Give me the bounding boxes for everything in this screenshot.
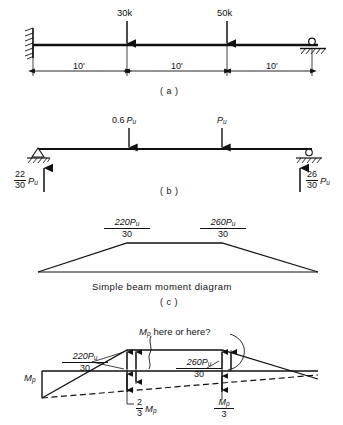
ordinate-d-1-numerator: 220Pu bbox=[62, 352, 108, 362]
redundant-1-subscript: p bbox=[153, 407, 157, 414]
panel-label-a: ( a ) bbox=[160, 86, 179, 96]
redundant-ordinate-label-1: 2 3 Mp bbox=[136, 398, 157, 419]
annotation-d: Mphere or here? bbox=[139, 327, 211, 338]
ordinate-stack-right-d bbox=[222, 350, 231, 400]
reaction-label-right-b: 26 30 Pu bbox=[306, 170, 330, 191]
load-label-b-1: 0.6Pu bbox=[112, 116, 136, 126]
reaction-left-denominator: 30 bbox=[14, 181, 26, 190]
load-label-b-2: Pu bbox=[217, 116, 227, 126]
load-b-1-coefficient: 0.6 bbox=[112, 115, 125, 125]
ordinate-c-1-numerator: 220Pu bbox=[104, 218, 150, 228]
end-moment-symbol: M bbox=[24, 372, 32, 383]
ordinate-c-1-denominator: 30 bbox=[104, 230, 150, 239]
redundant-2-numerator: Mp bbox=[214, 398, 234, 408]
panel-label-b: ( b ) bbox=[160, 186, 179, 196]
dimension-label-a-1: 10' bbox=[73, 62, 85, 71]
end-moment-subscript: p bbox=[32, 376, 36, 383]
reaction-left-subscript: u bbox=[34, 179, 38, 186]
ordinate-stack-left-d bbox=[127, 350, 136, 404]
moment-ordinate-d-1: 220Pu 30 bbox=[62, 352, 108, 373]
reaction-left-fraction: 22 30 bbox=[14, 170, 26, 191]
ordinate-d-2-denominator: 30 bbox=[176, 370, 222, 379]
load-label-30k: 30k bbox=[117, 8, 132, 18]
figure-root: 30k 50k 10' 10' 10' ( a ) 0.6Pu Pu 22 30… bbox=[0, 0, 343, 425]
annotation-subscript: p bbox=[147, 330, 151, 337]
dimension-label-a-2: 10' bbox=[171, 62, 183, 71]
reaction-left-symbol: Pu bbox=[28, 175, 38, 186]
annotation-text: here or here? bbox=[154, 326, 211, 337]
dimension-label-a-3: 10' bbox=[266, 62, 278, 71]
pin-support-left-b bbox=[27, 148, 50, 163]
redundant-2-denominator: 3 bbox=[214, 410, 234, 419]
reaction-right-symbol: Pu bbox=[320, 175, 330, 186]
fixed-support-left-a bbox=[25, 28, 33, 59]
load-b-1-subscript: u bbox=[133, 118, 137, 125]
redundant-1-fraction: 2 3 bbox=[136, 398, 143, 419]
annotation-symbol: M bbox=[139, 326, 147, 337]
moment-curve-c bbox=[38, 243, 318, 272]
caption-c: Simple beam moment diagram bbox=[92, 281, 232, 292]
panel-b-graphics bbox=[27, 128, 322, 192]
load-b-2-subscript: u bbox=[223, 118, 227, 125]
moment-ordinate-c-2: 260Pu 30 bbox=[200, 218, 246, 239]
reaction-right-subscript: u bbox=[326, 179, 330, 186]
moment-ordinate-d-2: 260Pu 30 bbox=[176, 358, 222, 379]
redundant-1-denominator: 3 bbox=[136, 409, 143, 418]
reaction-right-fraction: 26 30 bbox=[306, 170, 318, 191]
redundant-1-symbol: Mp bbox=[145, 403, 157, 414]
redundant-1-numerator: 2 bbox=[136, 398, 143, 407]
reaction-right-numerator: 26 bbox=[306, 170, 318, 179]
panel-c-graphics bbox=[38, 243, 318, 272]
reaction-right-denominator: 30 bbox=[306, 181, 318, 190]
panel-label-c: ( c ) bbox=[160, 297, 178, 307]
reaction-left-numerator: 22 bbox=[14, 170, 26, 179]
roller-support-right-b bbox=[296, 149, 322, 163]
reaction-label-left-b: 22 30 Pu bbox=[14, 170, 38, 191]
redundant-ordinate-label-2: Mp 3 bbox=[214, 398, 234, 419]
ordinate-d-2-numerator: 260Pu bbox=[176, 358, 222, 368]
moment-ordinate-c-1: 220Pu 30 bbox=[104, 218, 150, 239]
load-label-50k: 50k bbox=[217, 8, 232, 18]
ordinate-c-2-numerator: 260Pu bbox=[200, 218, 246, 228]
ordinate-c-2-denominator: 30 bbox=[200, 230, 246, 239]
ordinate-d-1-denominator: 30 bbox=[62, 364, 108, 373]
annotation-leader-left-d bbox=[149, 336, 151, 369]
end-moment-label-d: Mp bbox=[24, 373, 36, 384]
